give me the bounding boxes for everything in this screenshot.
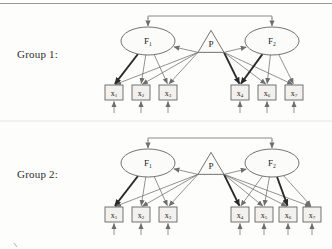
p-to-f1-group2 [174,169,198,174]
method-loading-group1-x3 [169,52,198,84]
loading-group1-f1-x1 [115,54,138,84]
p-to-f2-group1 [224,47,246,52]
p-to-f1-group1 [174,47,198,52]
loading-group2-f1-x2 [141,177,146,206]
diagram-content: F1F2Px1x2x3x4x6x7F1F2Px1x2x3x4x5x6x7 [0,4,332,248]
method-loading-group1-x7 [224,52,293,84]
loading-group2-f1-x1 [115,176,138,206]
loading-group1-f2-x6 [267,55,270,84]
page-mark-bottom [14,243,17,247]
loading-group2-f1-x3 [154,177,167,206]
factor-covariance-bracket-group2 [148,138,272,141]
loading-group1-f1-x3 [154,55,167,84]
method-loading-group2-x5 [224,174,263,206]
method-loading-group2-x3 [169,174,198,206]
loading-group2-f2-x6 [277,177,287,206]
factor-covariance-bracket-group1 [148,16,272,19]
loading-group1-f1-x2 [141,55,146,84]
p-to-f2-group2 [224,169,246,174]
method-loading-group1-x2 [142,52,198,84]
path-diagram-svg: F1F2Px1x2x3x4x6x7F1F2Px1x2x3x4x5x6x7 [0,0,332,249]
figure-canvas: Group 1: Group 2: F1F2Px1x2x3x4x6x7F1F2P… [0,0,332,249]
method-label-group1: P [208,39,213,49]
method-loading-group1-x4 [224,52,239,83]
method-loading-group2-x2 [142,174,198,206]
method-label-group2: P [208,161,213,171]
